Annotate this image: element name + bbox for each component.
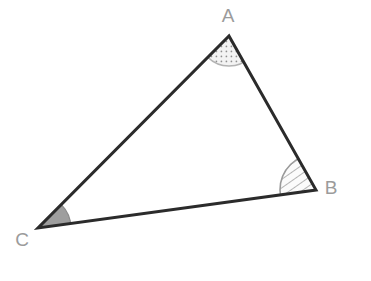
- triangle-diagram-canvas: A B C: [0, 0, 371, 281]
- geometry-figure: A B C: [0, 0, 371, 281]
- angle-markers-group: [5, 6, 352, 261]
- vertex-label-a: A: [222, 5, 235, 26]
- vertex-label-c: C: [15, 229, 29, 250]
- vertex-label-b: B: [325, 177, 338, 198]
- triangle-outline: [38, 36, 316, 228]
